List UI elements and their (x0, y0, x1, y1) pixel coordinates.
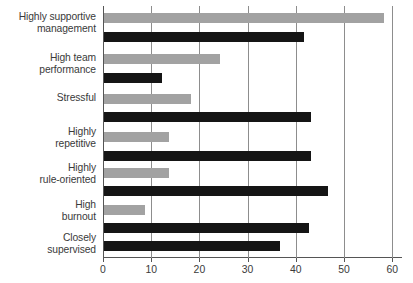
bar-series-black-2 (104, 112, 311, 122)
gridline-30 (248, 6, 249, 258)
category-label-2-line-0: Stressful (0, 92, 96, 104)
bar-series-black-4 (104, 186, 328, 196)
tick-20 (199, 258, 200, 262)
bar-series-gray-0 (104, 13, 384, 23)
x-axis-line (103, 257, 402, 258)
category-label-4-line-0: Highly (0, 162, 96, 174)
gridline-40 (296, 6, 297, 258)
category-label-6-line-1: supervised (0, 244, 96, 256)
bar-series-gray-5 (104, 205, 145, 215)
category-label-4: Highlyrule-oriented (0, 162, 96, 185)
plot-area: 0102030405060 (103, 6, 402, 258)
bar-series-black-3 (104, 151, 311, 161)
bar-chart: Highly supportivemanagementHigh teamperf… (0, 0, 413, 283)
tick-60 (392, 258, 393, 262)
category-label-6: Closelysupervised (0, 232, 96, 255)
bar-series-black-6 (104, 241, 280, 251)
category-label-4-line-1: rule-oriented (0, 174, 96, 186)
category-label-1: High teamperformance (0, 52, 96, 75)
category-label-0: Highly supportivemanagement (0, 11, 96, 34)
tick-30 (248, 258, 249, 262)
category-label-1-line-1: performance (0, 64, 96, 76)
category-label-3: Highlyrepetitive (0, 126, 96, 149)
bar-series-gray-4 (104, 168, 169, 178)
bar-series-gray-2 (104, 94, 191, 104)
category-label-5: Highburnout (0, 199, 96, 222)
x-tick-label-0: 0 (88, 264, 118, 275)
category-label-2: Stressful (0, 92, 96, 104)
tick-10 (151, 258, 152, 262)
category-label-5-line-1: burnout (0, 211, 96, 223)
tick-40 (296, 258, 297, 262)
category-axis-labels: Highly supportivemanagementHigh teamperf… (0, 0, 100, 283)
gridline-50 (344, 6, 345, 258)
bar-series-black-5 (104, 223, 309, 233)
x-tick-label-60: 60 (377, 264, 407, 275)
category-label-3-line-1: repetitive (0, 138, 96, 150)
gridline-60 (392, 6, 393, 258)
gridline-20 (199, 6, 200, 258)
category-label-1-line-0: High team (0, 52, 96, 64)
category-label-0-line-0: Highly supportive (0, 11, 96, 23)
category-label-3-line-0: Highly (0, 126, 96, 138)
x-tick-label-40: 40 (281, 264, 311, 275)
bar-series-black-1 (104, 73, 162, 83)
bar-series-gray-1 (104, 54, 220, 64)
x-tick-label-10: 10 (136, 264, 166, 275)
x-tick-label-20: 20 (184, 264, 214, 275)
x-tick-label-30: 30 (233, 264, 263, 275)
tick-50 (344, 258, 345, 262)
category-label-0-line-1: management (0, 23, 96, 35)
bar-series-black-0 (104, 32, 304, 42)
tick-0 (103, 258, 104, 262)
category-label-5-line-0: High (0, 199, 96, 211)
bar-series-gray-3 (104, 132, 169, 142)
category-label-6-line-0: Closely (0, 232, 96, 244)
x-tick-label-50: 50 (329, 264, 359, 275)
